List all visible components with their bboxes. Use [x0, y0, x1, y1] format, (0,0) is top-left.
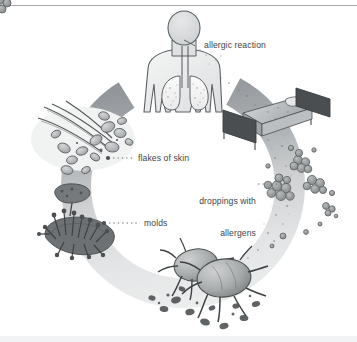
- label-flakes-of-skin: flakes of skin: [138, 153, 189, 164]
- label-droppings-with-allergens: droppings with allergens: [178, 175, 256, 259]
- molds-leader: [102, 221, 140, 225]
- human-head-and-lungs-illustration: [144, 11, 222, 112]
- label-droppings-line-1: droppings with: [178, 196, 256, 207]
- label-molds: molds: [144, 218, 167, 229]
- diagram-artwork: [0, 0, 357, 342]
- label-droppings-line-2: allergens: [178, 228, 256, 239]
- allergy-cycle-figure: allergic reaction flakes of skin droppin…: [0, 0, 357, 342]
- label-allergic-reaction: allergic reaction: [204, 40, 266, 51]
- bottom-edge-tint: [0, 336, 357, 342]
